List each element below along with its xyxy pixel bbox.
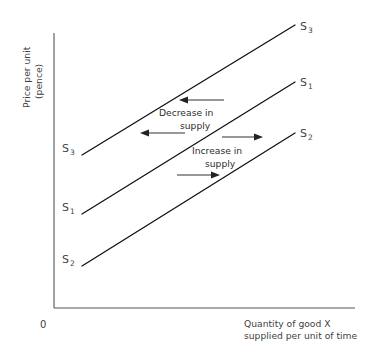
increase-label-line2: supply <box>205 158 236 169</box>
svg-text:S: S <box>62 253 69 266</box>
origin-label: 0 <box>40 319 46 330</box>
decrease-label-line1: Decrease in <box>159 107 214 118</box>
increase-arrow-upper <box>222 134 263 141</box>
svg-text:S: S <box>62 142 69 155</box>
curve-label-s1-right: S 1 <box>300 76 313 91</box>
increase-arrow-lower <box>177 172 220 179</box>
y-axis-title: Price per unit (pence) <box>21 46 44 108</box>
svg-text:S: S <box>62 201 69 214</box>
supply-curve-s2 <box>82 133 295 266</box>
curve-label-s2-right: S 2 <box>300 127 313 142</box>
decrease-label-line2: supply <box>180 120 211 131</box>
supply-curve-s3 <box>82 25 295 155</box>
svg-text:S: S <box>300 127 307 140</box>
svg-text:1: 1 <box>70 207 75 216</box>
curve-label-s2-left: S 2 <box>62 253 75 268</box>
svg-text:1: 1 <box>308 82 313 91</box>
svg-text:3: 3 <box>308 26 313 35</box>
svg-text:2: 2 <box>70 259 75 268</box>
curve-label-s3-right: S 3 <box>300 20 313 35</box>
svg-text:2: 2 <box>308 133 313 142</box>
decrease-arrow-upper <box>179 97 224 104</box>
x-axis-title-line2: supplied per unit of time <box>244 330 358 341</box>
decrease-arrow-lower <box>140 130 185 137</box>
svg-text:(pence): (pence) <box>33 64 44 99</box>
svg-text:S: S <box>300 76 307 89</box>
svg-text:3: 3 <box>70 148 75 157</box>
svg-text:S: S <box>300 20 307 33</box>
curve-label-s1-left: S 1 <box>62 201 75 216</box>
supply-shift-diagram: S 3 S 1 S 2 S 3 S 1 S 2 Decrease in supp… <box>0 0 366 361</box>
supply-curve-s1 <box>82 82 295 214</box>
increase-label-line1: Increase in <box>192 145 242 156</box>
x-axis-title-line1: Quantity of good X <box>244 318 331 329</box>
svg-text:Price per unit: Price per unit <box>21 46 32 108</box>
curve-label-s3-left: S 3 <box>62 142 75 157</box>
